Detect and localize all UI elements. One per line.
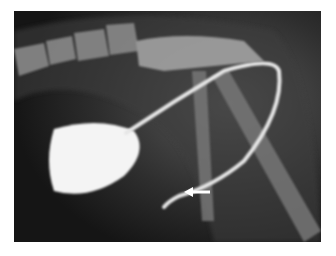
radiograph-svg [14, 11, 321, 242]
radiograph-image [14, 11, 321, 242]
